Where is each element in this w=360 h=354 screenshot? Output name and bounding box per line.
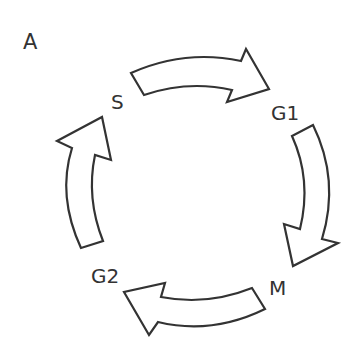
phase-label-s: S <box>111 92 124 112</box>
arrow-s-to-g1 <box>131 49 269 102</box>
cell-cycle-diagram <box>0 0 360 354</box>
arrow-m-to-g2 <box>124 283 265 335</box>
phase-label-g2: G2 <box>91 266 119 286</box>
arrow-g1-to-m <box>284 125 338 266</box>
arrow-g2-to-s <box>57 117 111 248</box>
phase-label-g1: G1 <box>271 103 299 123</box>
phase-label-m: M <box>269 278 286 298</box>
